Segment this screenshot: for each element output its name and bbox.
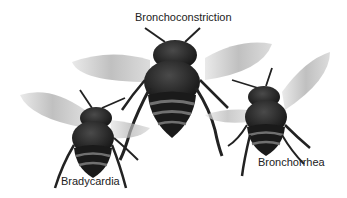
wing-right — [110, 120, 150, 138]
label-bronchorrhea: Bronchorrhea — [258, 157, 325, 168]
abdomen — [74, 145, 112, 178]
label-bradycardia: Bradycardia — [61, 176, 120, 187]
bee-illustration: Bronchoconstriction Bradycardia Bronchor… — [0, 0, 347, 198]
label-bronchoconstriction: Bronchoconstriction — [135, 12, 232, 23]
abdomen — [247, 124, 285, 156]
wing-left — [72, 54, 150, 82]
bee-left — [20, 90, 150, 188]
wing-right — [205, 43, 272, 80]
antenna-left — [80, 90, 92, 108]
wing-right — [282, 52, 330, 110]
antenna-right — [185, 28, 200, 42]
antenna-left — [145, 28, 165, 42]
antenna-right — [102, 98, 125, 108]
leg — [228, 125, 247, 146]
wing-left — [20, 92, 85, 128]
antenna-left — [232, 80, 258, 88]
antenna-right — [266, 68, 272, 86]
bees-drawing — [0, 0, 347, 198]
leg — [242, 135, 250, 176]
